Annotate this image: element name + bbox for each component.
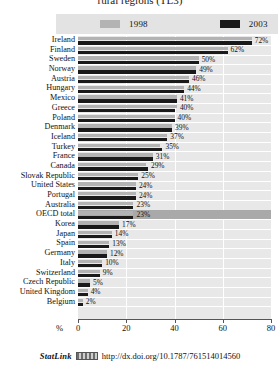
category-label: Hungary xyxy=(46,83,75,93)
bar-value-label: 40% xyxy=(178,113,192,123)
bar-2003 xyxy=(78,235,112,238)
category-label: Italy xyxy=(60,258,75,268)
bar-1998 xyxy=(78,56,199,59)
bar-1998 xyxy=(78,173,138,176)
bar-value-label: 46% xyxy=(192,74,206,84)
value-axis: 020406080 xyxy=(78,319,271,339)
axis-tick-label: 40 xyxy=(170,323,179,333)
statlink-url[interactable]: http://dx.doi.org/10.1787/761514014560 xyxy=(102,351,240,361)
bar-2003 xyxy=(78,119,175,122)
bar-row: 24% xyxy=(78,181,271,191)
bar-value-label: 39% xyxy=(175,123,189,133)
legend-label-2003: 2003 xyxy=(249,19,268,29)
bar-row: 5% xyxy=(78,278,271,288)
bar-2003 xyxy=(78,138,167,141)
axis-tick-label: 60 xyxy=(219,323,228,333)
bar-1998 xyxy=(78,163,146,166)
category-label: Czech Republic xyxy=(23,277,75,287)
bar-row: 23% xyxy=(78,210,271,220)
bar-row: 24% xyxy=(78,191,271,201)
legend-swatch-1998 xyxy=(100,20,120,28)
bar-value-label: 44% xyxy=(187,84,201,94)
bar-value-label: 49% xyxy=(199,65,213,75)
legend-item-1998: 1998 xyxy=(100,19,148,29)
bar-1998 xyxy=(78,134,167,137)
bar-row: 13% xyxy=(78,239,271,249)
category-label: Finland xyxy=(50,45,75,55)
bar-value-label: 24% xyxy=(139,181,153,191)
bar-value-label: 10% xyxy=(105,258,119,268)
category-label: United States xyxy=(31,180,75,190)
bar-row: 40% xyxy=(78,104,271,114)
bar-1998 xyxy=(78,144,160,147)
category-label: Korea xyxy=(55,219,75,229)
bar-2003 xyxy=(78,303,83,306)
bar-2003 xyxy=(78,187,136,190)
bar-2003 xyxy=(78,225,119,228)
category-label: Turkey xyxy=(52,142,75,152)
bar-2003 xyxy=(78,196,136,199)
category-label: Switzerland xyxy=(36,268,75,278)
bar-value-label: 14% xyxy=(115,229,129,239)
bar-1998 xyxy=(78,192,136,195)
bar-2003 xyxy=(78,157,153,160)
category-axis-labels: IrelandFinlandSwedenNorwayAustriaHungary… xyxy=(0,36,78,319)
bar-2003 xyxy=(78,264,102,267)
bar-1998 xyxy=(78,241,109,244)
bar-1998 xyxy=(78,124,172,127)
statlink-icon xyxy=(76,352,98,360)
statlink-footer: StatLink http://dx.doi.org/10.1787/76151… xyxy=(0,348,280,364)
bar-1998 xyxy=(78,221,119,224)
bar-value-label: 24% xyxy=(139,191,153,201)
bar-value-label: 50% xyxy=(202,55,216,65)
category-label: Australia xyxy=(45,200,75,210)
category-label: Norway xyxy=(49,64,75,74)
bar-2003 xyxy=(78,99,177,102)
chart-container: rural regions (TL3) 1998 2003 IrelandFin… xyxy=(0,0,280,366)
category-label: Iceland xyxy=(51,132,75,142)
bar-1998 xyxy=(78,270,100,273)
bar-value-label: 2% xyxy=(86,297,96,307)
bar-2003 xyxy=(78,216,133,219)
bar-2003 xyxy=(78,148,162,151)
bar-row: 31% xyxy=(78,152,271,162)
bar-value-label: 25% xyxy=(141,171,155,181)
bar-2003 xyxy=(78,167,148,170)
bar-value-label: 12% xyxy=(110,249,124,259)
bar-row: 25% xyxy=(78,172,271,182)
chart-legend: 1998 2003 xyxy=(56,14,278,34)
bar-1998 xyxy=(78,95,177,98)
bar-1998 xyxy=(78,66,196,69)
bar-row: 4% xyxy=(78,288,271,298)
legend-item-2003: 2003 xyxy=(220,19,268,29)
category-label: Greece xyxy=(52,103,75,113)
bar-row: 23% xyxy=(78,201,271,211)
bar-1998 xyxy=(78,37,252,40)
bar-2003 xyxy=(78,245,109,248)
category-label: Germany xyxy=(45,248,75,258)
bar-value-label: 62% xyxy=(231,45,245,55)
category-label: Poland xyxy=(52,113,75,123)
bar-value-label: 17% xyxy=(122,220,136,230)
bar-value-label: 41% xyxy=(180,94,194,104)
bar-2003 xyxy=(78,80,189,83)
axis-tick-label: 0 xyxy=(76,323,80,333)
axis-unit-label: % xyxy=(56,323,63,333)
axis-tick-label: 20 xyxy=(122,323,131,333)
bar-row: 2% xyxy=(78,298,271,308)
bar-1998 xyxy=(78,115,175,118)
bar-1998 xyxy=(78,289,88,292)
bar-value-label: 23% xyxy=(136,210,150,220)
bar-row: 62% xyxy=(78,46,271,56)
category-label: Denmark xyxy=(45,122,75,132)
category-label: Portugal xyxy=(47,190,75,200)
bar-value-label: 37% xyxy=(170,132,184,142)
category-label: OECD total xyxy=(36,209,75,219)
category-label: Sweden xyxy=(49,54,75,64)
bar-row: 49% xyxy=(78,65,271,75)
bar-row: 50% xyxy=(78,55,271,65)
bar-row: 14% xyxy=(78,230,271,240)
bar-2003 xyxy=(78,293,88,296)
bar-value-label: 31% xyxy=(156,152,170,162)
bar-value-label: 4% xyxy=(91,287,101,297)
